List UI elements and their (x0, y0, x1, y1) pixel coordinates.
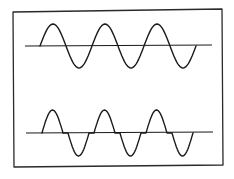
diagram-frame (13, 9, 223, 167)
waveform-diagram (0, 0, 234, 179)
crossover-distorted-sine-wave (42, 110, 193, 156)
